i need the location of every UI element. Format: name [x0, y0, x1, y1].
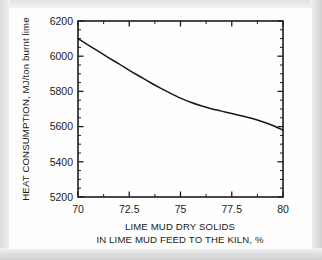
y-axis-major-ticks	[78, 21, 283, 197]
x-axis-tick-label: 77.5	[222, 203, 243, 215]
y-axis-tick-labels: 520054005600580060006200	[50, 15, 74, 203]
x-axis-major-ticks	[78, 21, 283, 197]
y-axis-title: HEAT CONSUMPTION, MJ/ton burnt lime	[20, 17, 31, 200]
screenshot-root: 520054005600580060006200 7072.57577.580 …	[0, 0, 322, 260]
plot-frame	[78, 21, 283, 197]
line-chart: 520054005600580060006200 7072.57577.580 …	[9, 8, 312, 249]
y-axis-tick-label: 6000	[50, 50, 74, 62]
x-axis-tick-label: 72.5	[119, 203, 140, 215]
figure-panel: 520054005600580060006200 7072.57577.580 …	[9, 8, 312, 249]
x-axis-title-line-2: IN LIME MUD FEED TO THE KILN, %	[96, 234, 264, 245]
frame-edge-bottom	[0, 248, 322, 260]
y-axis-tick-label: 5600	[50, 120, 74, 132]
y-axis-tick-label: 6200	[50, 15, 74, 27]
data-series-heat-consumption	[78, 39, 283, 131]
y-axis-minor-ticks	[78, 30, 283, 188]
y-axis-tick-label: 5400	[50, 156, 74, 168]
x-axis-tick-labels: 7072.57577.580	[72, 203, 289, 215]
x-axis-tick-label: 75	[175, 203, 187, 215]
x-axis-title-line-1: LIME MUD DRY SOLIDS	[125, 221, 235, 232]
y-axis-tick-label: 5800	[50, 85, 74, 97]
x-axis-minor-ticks	[104, 21, 258, 197]
y-axis-tick-label: 5200	[50, 191, 74, 203]
x-axis-tick-label: 70	[72, 203, 84, 215]
x-axis-tick-label: 80	[277, 203, 289, 215]
